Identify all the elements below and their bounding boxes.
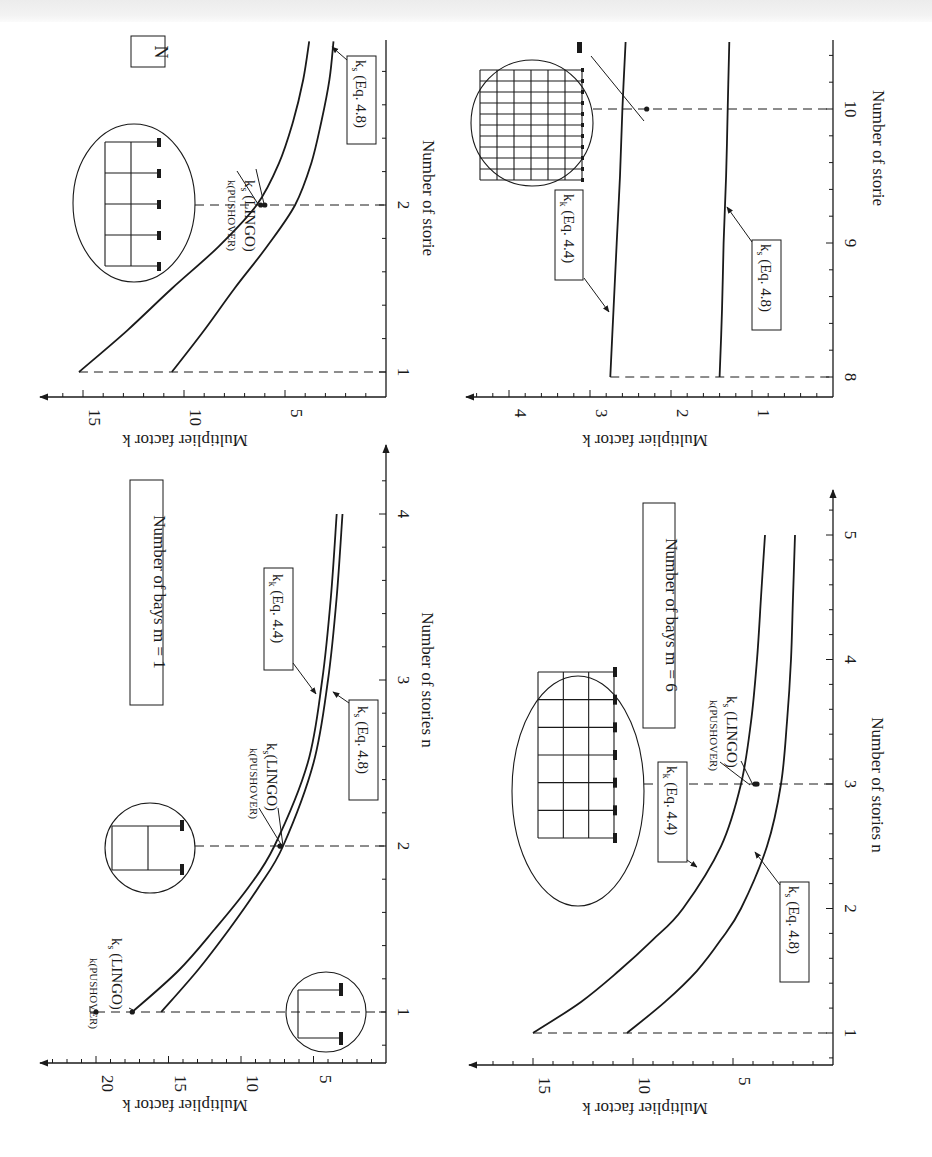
pushover-label: k(PUSHOVER) [225,180,238,251]
x-tick-label: 4 [394,510,413,519]
x-tick-label: 5 [841,531,860,540]
y-tick-label: 10 [243,1075,262,1092]
x-axis-label: Number of storie [869,90,888,206]
data-point-marker [262,202,267,207]
y-tick-label: 5 [316,1075,335,1084]
x-tick-label: 1 [841,1029,860,1038]
svg-text:N: N [151,46,171,59]
curves [593,42,833,377]
x-axis-label: Number of stories n [868,717,887,853]
ks-eq48-label: ks (Eq. 4.8) [755,852,809,982]
title-box-m4: N [131,36,171,67]
series-ks-curve [720,42,730,377]
y-axis-label-m4: Multiplier factor k [122,431,248,450]
x-tick-label: 10 [841,101,860,118]
y-tick-label: 1 [754,409,773,418]
ks-eq48-label: ks (Eq. 4.8) [727,207,781,330]
x-tick-label: 4 [841,655,860,664]
frame-diagram-tall-grid-icon [471,60,593,186]
title-box-m1: Number of bays m = 1 [130,480,169,705]
y-axis-labels: Multiplier factor k Multiplier factor k … [122,431,708,1118]
y-axis-label-m1: Multiplier factor k [122,1096,248,1115]
ks-eq48-label: ks (Eq. 4.8) [332,47,376,144]
y-tick-label: 5 [735,1077,754,1086]
frame-diagram-1-bay-2-story-icon [105,803,195,893]
kk-eq44-label: kk (Eq. 4.4) [264,568,316,694]
pushover-lingo-annotation: k(PUSHOVER) ks (LINGO) [707,696,753,785]
svg-text:k(PUSHOVER): k(PUSHOVER) [87,958,100,1029]
y-tick-label: 15 [535,1077,554,1094]
data-point-marker [754,781,759,786]
y-tick-label: 3 [592,409,611,418]
pushover-lingo-annotation-n1: k(PUSHOVER) ks (LINGO) [87,938,133,1029]
x-tick-label: 2 [841,904,860,913]
frame-diagram-6-bays-icon [512,667,644,906]
x-tick-label: 1 [394,1008,413,1017]
svg-text:ks (LINGO): ks (LINGO) [106,938,125,1010]
y-tick-label: 2 [673,409,692,418]
ks-eq48-label: ks (Eq. 4.8) [333,692,378,800]
y-axis-label-tall: Multiplier factor k [582,431,708,450]
y-tick-label: 10 [635,1077,654,1094]
curves [93,514,386,1015]
pushover-lingo-annotation-n2: k(PUSHOVER) ks(LINGO) [247,743,283,846]
svg-text:k(PUSHOVER): k(PUSHOVER) [707,700,720,771]
y-tick-label: 20 [98,1075,117,1092]
frame-diagram-4-bays-icon [73,124,195,282]
svg-text:ks(LINGO): ks(LINGO) [261,743,280,811]
x-tick-label: 8 [841,373,860,382]
x-tick-label: 9 [841,239,860,248]
svg-text:ks (LINGO): ks (LINGO) [721,696,740,768]
x-tick-label: 3 [394,676,413,685]
chart-panel-m1: 51015201234 Number of bays m = 1 k(PUSHO… [40,445,437,1092]
chart-panel-m4: 5101512 N k(PUSHOVER) ks (LINGO) [40,36,438,426]
series-kk-curve [610,42,625,377]
x-tick-label: 1 [394,368,413,377]
svg-text:Number of bays m = 6: Number of bays m = 6 [662,538,681,692]
pushover-lingo-annotation: k(PUSHOVER) ks (LINGO) [225,169,264,252]
x-tick-label: 2 [394,201,413,210]
svg-text:k(PUSHOVER): k(PUSHOVER) [247,748,260,819]
x-axis-label: Number of stories n [418,612,437,748]
chart-panel-m6: 5101512345 Number of bays m = 6 k(PUSHOV… [469,490,887,1094]
y-tick-label: 15 [171,1075,190,1092]
chart-panel-tall-building: 12348910 kk (Eq. 4.4) ks (Eq. 4.8) Numbe… [466,40,888,418]
svg-text:Number of bays m = 1: Number of bays m = 1 [150,515,169,669]
y-axis-label-m6: Multiplier factor k [582,1099,708,1118]
axes: 12348910 [466,40,860,418]
x-tick-label: 2 [394,842,413,851]
figure-canvas: 5101512 N k(PUSHOVER) ks (LINGO) [0,0,932,1157]
kk-eq44-label: kk (Eq. 4.4) [555,190,609,312]
y-tick-label: 4 [511,409,530,418]
kk-eq44-label: kk (Eq. 4.4) [658,762,697,867]
series-kk-curve [79,41,309,372]
lingo-label: ks (LINGO) [239,180,258,252]
y-tick-label: 15 [85,409,104,426]
x-tick-label: 3 [841,780,860,789]
y-tick-label: 5 [287,409,306,418]
y-tick-label: 10 [186,409,205,426]
x-axis-label: Number of storie [419,140,438,256]
data-point-marker [644,106,649,111]
title-box-m6: Number of bays m = 6 [643,503,681,728]
